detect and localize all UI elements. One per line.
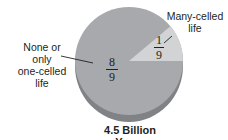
fraction-denominator: 9 [156, 48, 162, 62]
label-line: only [14, 53, 70, 65]
label-line: Many-celled [163, 10, 227, 22]
fraction-eight-ninths: 8 9 [106, 56, 118, 83]
fraction-numerator: 8 [109, 55, 115, 69]
label-one-celled: None or only one-celled life [14, 41, 70, 89]
label-line: one-celled [14, 65, 70, 77]
fraction-denominator: 9 [109, 70, 115, 84]
label-line: None or [14, 41, 70, 53]
fraction-numerator: 1 [156, 33, 162, 47]
label-line: life [163, 22, 227, 34]
fraction-one-ninth: 1 9 [154, 34, 164, 61]
chart-caption: 4.5 Billion Years [88, 124, 172, 140]
label-line: life [14, 77, 70, 89]
label-many-celled: Many-celled life [163, 10, 227, 34]
